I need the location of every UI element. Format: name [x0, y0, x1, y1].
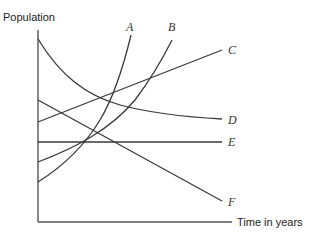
curve-a — [38, 35, 131, 182]
label-a: A — [125, 20, 134, 34]
label-f: F — [227, 195, 236, 209]
label-e: E — [227, 135, 236, 149]
y-axis-label: Population — [3, 11, 55, 23]
curve-d — [38, 39, 222, 119]
population-chart: Population Time in years D C F E B A — [0, 0, 318, 240]
label-b: B — [168, 20, 176, 34]
curve-c — [38, 50, 222, 122]
curve-b — [38, 40, 172, 162]
x-axis-label: Time in years — [237, 216, 303, 228]
label-c: C — [228, 43, 237, 57]
label-d: D — [227, 113, 237, 127]
